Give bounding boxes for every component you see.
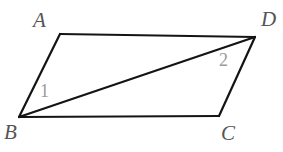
edge-b-c	[19, 116, 219, 117]
edge-c-d	[219, 37, 255, 116]
vertex-label-b: B	[4, 122, 17, 143]
vertex-label-a: A	[33, 10, 46, 31]
angle-label-2: 2	[219, 51, 228, 69]
angle-label-1: 1	[40, 82, 49, 100]
vertex-label-d: D	[261, 9, 276, 30]
edge-a-d	[60, 34, 255, 37]
diagonal-b-d	[19, 37, 255, 117]
geometry-figure: A D B C 1 2	[0, 0, 283, 152]
parallelogram-shape	[19, 34, 255, 117]
vertex-label-c: C	[221, 123, 235, 144]
